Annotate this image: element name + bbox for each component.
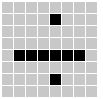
pixel-cell[interactable] <box>38 38 49 49</box>
pixel-cell[interactable] <box>26 38 37 49</box>
pixel-cell[interactable] <box>86 2 97 13</box>
pixel-cell[interactable] <box>74 62 85 73</box>
pixel-cell[interactable] <box>38 14 49 25</box>
pixel-cell[interactable] <box>74 14 85 25</box>
pixel-cell[interactable] <box>86 50 97 61</box>
pixel-cell[interactable] <box>14 26 25 37</box>
pixel-cell[interactable] <box>26 74 37 85</box>
pixel-cell[interactable] <box>62 38 73 49</box>
pixel-cell[interactable] <box>50 74 61 85</box>
pixel-cell[interactable] <box>2 14 13 25</box>
pixel-cell[interactable] <box>26 2 37 13</box>
pixel-cell[interactable] <box>74 86 85 97</box>
pixel-cell[interactable] <box>74 74 85 85</box>
pixel-cell[interactable] <box>50 50 61 61</box>
pixel-cell[interactable] <box>2 26 13 37</box>
pixel-cell[interactable] <box>86 14 97 25</box>
pixel-cell[interactable] <box>2 86 13 97</box>
pixel-cell[interactable] <box>86 86 97 97</box>
pixel-grid-layer <box>0 0 103 99</box>
pixel-grid-canvas[interactable] <box>0 0 103 99</box>
pixel-cell[interactable] <box>14 38 25 49</box>
pixel-cell[interactable] <box>14 50 25 61</box>
pixel-cell[interactable] <box>62 2 73 13</box>
pixel-cell[interactable] <box>2 50 13 61</box>
pixel-cell[interactable] <box>62 50 73 61</box>
pixel-cell[interactable] <box>74 38 85 49</box>
pixel-cell[interactable] <box>50 62 61 73</box>
pixel-cell[interactable] <box>50 86 61 97</box>
pixel-cell[interactable] <box>62 86 73 97</box>
pixel-cell[interactable] <box>62 26 73 37</box>
pixel-cell[interactable] <box>26 62 37 73</box>
pixel-cell[interactable] <box>50 14 61 25</box>
pixel-cell[interactable] <box>38 50 49 61</box>
pixel-cell[interactable] <box>50 2 61 13</box>
pixel-cell[interactable] <box>50 26 61 37</box>
pixel-cell[interactable] <box>74 26 85 37</box>
pixel-cell[interactable] <box>38 2 49 13</box>
pixel-cell[interactable] <box>86 74 97 85</box>
pixel-cell[interactable] <box>38 26 49 37</box>
pixel-cell[interactable] <box>26 26 37 37</box>
pixel-cell[interactable] <box>38 86 49 97</box>
pixel-cell[interactable] <box>14 14 25 25</box>
pixel-cell[interactable] <box>26 86 37 97</box>
pixel-cell[interactable] <box>2 38 13 49</box>
pixel-cell[interactable] <box>38 74 49 85</box>
pixel-cell[interactable] <box>14 2 25 13</box>
pixel-cell[interactable] <box>26 14 37 25</box>
pixel-cell[interactable] <box>50 38 61 49</box>
pixel-cell[interactable] <box>14 86 25 97</box>
pixel-cell[interactable] <box>2 74 13 85</box>
pixel-cell[interactable] <box>14 62 25 73</box>
pixel-cell[interactable] <box>86 62 97 73</box>
pixel-cell[interactable] <box>2 2 13 13</box>
pixel-cell[interactable] <box>86 26 97 37</box>
pixel-cell[interactable] <box>62 62 73 73</box>
pixel-cell[interactable] <box>74 2 85 13</box>
pixel-cell[interactable] <box>62 74 73 85</box>
pixel-cell[interactable] <box>2 62 13 73</box>
pixel-cell[interactable] <box>62 14 73 25</box>
pixel-cell[interactable] <box>74 50 85 61</box>
pixel-cell[interactable] <box>86 38 97 49</box>
pixel-cell[interactable] <box>38 62 49 73</box>
pixel-cell[interactable] <box>14 74 25 85</box>
pixel-cell[interactable] <box>26 50 37 61</box>
